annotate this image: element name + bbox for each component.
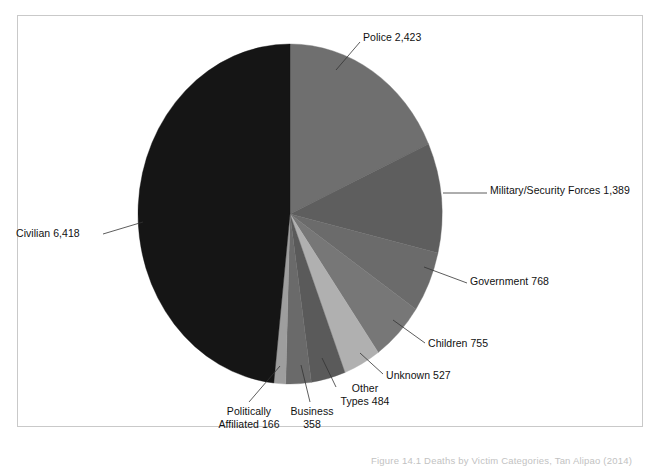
slice-label-government: Government 768 xyxy=(470,275,549,288)
slice-label-civilian: Civilian 6,418 xyxy=(16,227,80,240)
slice-label-unknown: Unknown 527 xyxy=(386,369,451,382)
slice-label-other-types: Other Types 484 xyxy=(338,382,392,407)
slice-label-politically-affiliated-line2: Affiliated 166 xyxy=(218,418,279,430)
slice-label-children: Children 755 xyxy=(428,337,488,350)
pie-chart-svg xyxy=(0,0,660,468)
figure-caption: Figure 14.1 Deaths by Victim Categories,… xyxy=(371,455,632,466)
pie-chart: Police 2,423 Military/Security Forces 1,… xyxy=(0,0,660,468)
slice-label-police: Police 2,423 xyxy=(363,31,421,44)
leader-line-civilian xyxy=(103,222,143,234)
pie-slices xyxy=(138,44,442,384)
slice-label-business-line1: Business xyxy=(290,405,333,417)
slice-label-politically-affiliated-line1: Politically xyxy=(227,405,271,417)
slice-label-politically-affiliated: Politically Affiliated 166 xyxy=(213,405,285,430)
slice-label-business-line2: 358 xyxy=(303,418,321,430)
slice-label-other-types-line1: Other xyxy=(352,382,379,394)
slice-label-business: Business 358 xyxy=(289,405,335,430)
pie-slice-civilian xyxy=(138,44,290,383)
slice-label-military: Military/Security Forces 1,389 xyxy=(490,184,630,197)
slice-label-other-types-line2: Types 484 xyxy=(341,395,390,407)
